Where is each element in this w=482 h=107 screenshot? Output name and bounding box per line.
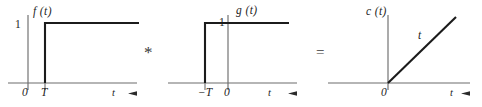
convolution-figure: 1 f (t) 0 T t * 1 g (t) −T 0 t = xyxy=(0,0,482,107)
y-tick-label-one-g: 1 xyxy=(219,17,225,29)
x-tick-label-T-f: T xyxy=(41,87,47,99)
plot-g-of-t: 1 g (t) −T 0 t xyxy=(150,0,310,107)
plot-g-canvas xyxy=(150,0,310,107)
function-label-c: c (t) xyxy=(366,6,387,18)
ramp-slope-label-c: t xyxy=(418,30,421,42)
x-axis-arrow-f xyxy=(128,91,137,96)
x-axis-label-g: t xyxy=(268,88,271,99)
curve-step-f xyxy=(45,23,139,83)
plot-c-of-t: c (t) t 0 t xyxy=(310,0,482,107)
x-axis-arrow-c xyxy=(461,91,470,96)
curve-step-g xyxy=(205,23,289,83)
function-label-g: g (t) xyxy=(236,5,257,17)
plot-c-canvas xyxy=(310,0,482,107)
x-tick-label-zero-g: 0 xyxy=(224,87,230,99)
function-label-f: f (t) xyxy=(33,6,52,18)
curve-ramp-c xyxy=(388,17,456,83)
x-tick-label-zero-f: 0 xyxy=(22,87,28,99)
x-tick-label-negT-g: −T xyxy=(198,87,212,99)
x-axis-label-f: t xyxy=(112,88,115,99)
x-axis-arrow-g xyxy=(288,91,297,96)
y-tick-label-one-f: 1 xyxy=(15,19,21,31)
plot-f-of-t: 1 f (t) 0 T t xyxy=(0,0,150,107)
x-axis-label-c: t xyxy=(450,88,453,99)
x-tick-label-zero-c: 0 xyxy=(381,87,387,99)
